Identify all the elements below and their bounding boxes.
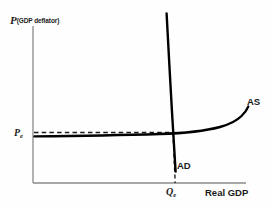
ad-curve-label: AD bbox=[177, 161, 191, 171]
as-curve-label: AS bbox=[247, 97, 260, 107]
y-axis-symbol: P bbox=[10, 14, 17, 26]
ad-as-diagram: P(GDP deflator) Real GDP Pe Qe AS AD bbox=[0, 0, 273, 208]
y-axis-title: P(GDP deflator) bbox=[10, 10, 59, 26]
x-tick-label-qe: Qe bbox=[166, 187, 176, 199]
chart-canvas bbox=[0, 0, 273, 208]
y-axis-qualifier: (GDP deflator) bbox=[17, 17, 60, 24]
qe-subscript: e bbox=[173, 191, 176, 198]
pe-subscript: e bbox=[20, 132, 23, 139]
x-axis-title: Real GDP bbox=[205, 188, 248, 198]
ad-curve bbox=[167, 14, 176, 172]
y-tick-label-pe: Pe bbox=[14, 128, 23, 140]
